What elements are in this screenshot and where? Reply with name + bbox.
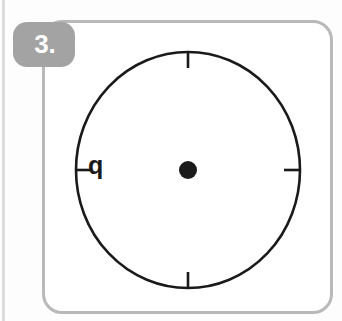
center-point-dot xyxy=(179,161,197,179)
problem-number-label: 3. xyxy=(32,31,56,59)
problem-number-badge: 3. xyxy=(13,22,75,67)
segment-label-q: q xyxy=(88,153,103,178)
worksheet-problem-screenshot: 3. q xyxy=(0,0,342,321)
